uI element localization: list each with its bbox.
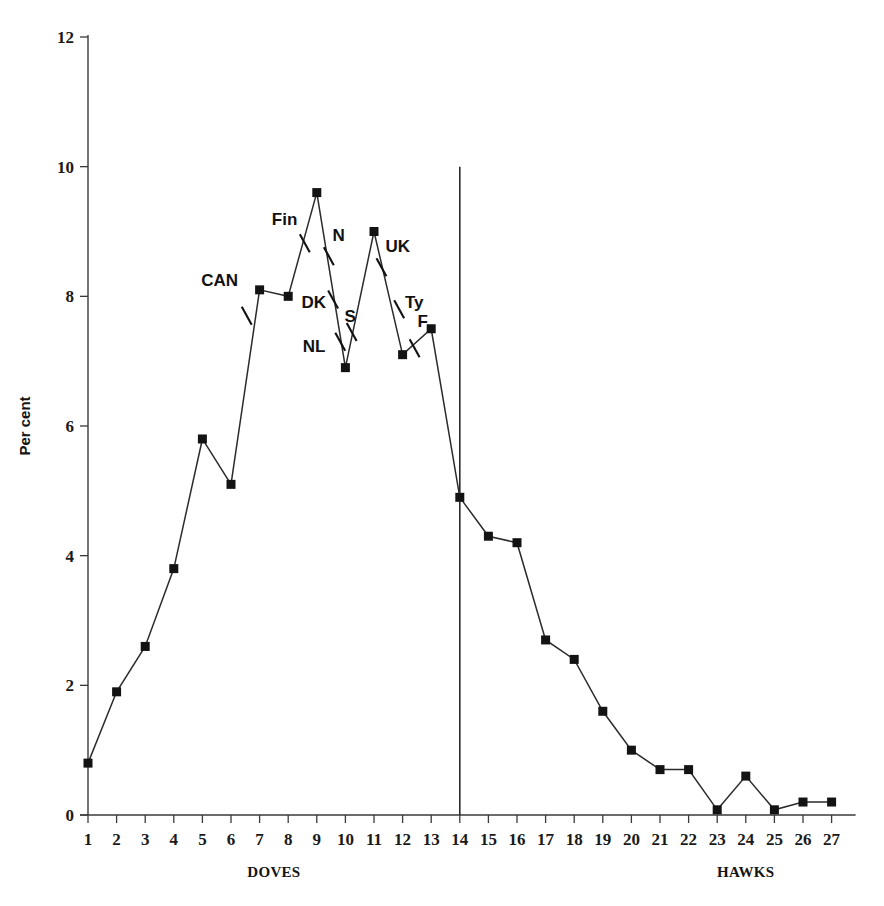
y-axis-title: Per cent [16, 396, 33, 455]
axis-group-label: DOVES [247, 864, 300, 880]
data-point-marker [284, 292, 293, 301]
data-point-marker [799, 798, 808, 807]
x-axis-tick-label: 3 [141, 830, 150, 849]
country-annotation-label: UK [385, 237, 410, 256]
x-axis-tick-label: 22 [680, 830, 697, 849]
country-annotation-label: Fin [272, 210, 298, 229]
x-axis-tick-label: 8 [284, 830, 293, 849]
data-point-marker [112, 687, 121, 696]
data-point-marker [398, 350, 407, 359]
country-annotation-label: F [417, 312, 427, 331]
data-point-marker [684, 765, 693, 774]
x-axis-tick-label: 20 [623, 830, 640, 849]
x-axis-tick-label: 10 [337, 830, 354, 849]
y-axis-tick-label: 10 [57, 158, 74, 177]
data-point-marker [455, 493, 464, 502]
x-axis-tick-label: 9 [313, 830, 322, 849]
y-axis-tick-label: 0 [66, 806, 75, 825]
y-axis-tick-label: 2 [66, 676, 75, 695]
y-axis-tick-label: 6 [66, 417, 75, 436]
x-axis-tick-label: 26 [795, 830, 812, 849]
data-point-marker [312, 188, 321, 197]
data-point-marker [770, 805, 779, 814]
data-point-marker [541, 635, 550, 644]
x-axis-tick-label: 18 [566, 830, 583, 849]
data-point-marker [827, 798, 836, 807]
axes-layer: 0246810121234567891011121314151617181920… [57, 28, 856, 849]
annotation-leader-tick [394, 300, 404, 318]
country-annotation-label: NL [303, 337, 326, 356]
data-point-marker [484, 532, 493, 541]
y-axis-tick-label: 12 [57, 28, 74, 47]
annotation-leader-tick [410, 339, 420, 357]
axis-group-label: HAWKS [717, 864, 774, 880]
x-axis-tick-label: 25 [766, 830, 783, 849]
x-axis-tick-label: 16 [509, 830, 526, 849]
x-axis-tick-label: 24 [737, 830, 755, 849]
data-point-marker [656, 765, 665, 774]
country-annotation-label: N [333, 226, 345, 245]
country-annotation-label: CAN [201, 271, 238, 290]
x-axis-tick-label: 27 [823, 830, 841, 849]
x-axis-tick-label: 6 [227, 830, 236, 849]
data-point-marker [570, 655, 579, 664]
x-axis-tick-label: 23 [709, 830, 726, 849]
line-chart: 0246810121234567891011121314151617181920… [0, 0, 884, 906]
labels-layer: Per centDOVESHAWKS [16, 396, 774, 880]
x-axis-tick-label: 17 [537, 830, 555, 849]
x-axis-tick-label: 2 [112, 830, 121, 849]
data-point-marker [255, 285, 264, 294]
y-axis-tick-label: 4 [66, 547, 75, 566]
data-point-marker [627, 746, 636, 755]
x-axis-tick-label: 1 [84, 830, 93, 849]
country-annotation-label: DK [301, 293, 326, 312]
data-point-marker [198, 434, 207, 443]
x-axis-tick-label: 5 [198, 830, 207, 849]
data-point-marker [713, 805, 722, 814]
x-axis-tick-label: 15 [480, 830, 497, 849]
data-point-marker [370, 227, 379, 236]
annotations-layer: CANFinNDKSNLUKTyF [201, 210, 428, 358]
x-axis-tick-label: 7 [255, 830, 264, 849]
x-axis-tick-label: 14 [451, 830, 469, 849]
x-axis-tick-label: 11 [366, 830, 382, 849]
data-point-marker [84, 759, 93, 768]
data-point-marker [341, 363, 350, 372]
chart-container: 0246810121234567891011121314151617181920… [0, 0, 884, 906]
country-annotation-label: Ty [405, 293, 424, 312]
data-point-marker [598, 707, 607, 716]
data-point-marker [227, 480, 236, 489]
data-point-marker [169, 564, 178, 573]
data-point-marker [741, 772, 750, 781]
x-axis-tick-label: 19 [594, 830, 611, 849]
y-axis-tick-label: 8 [66, 287, 75, 306]
data-point-marker [141, 642, 150, 651]
data-point-marker [513, 538, 522, 547]
annotation-leader-tick [242, 307, 252, 325]
country-annotation-label: S [345, 307, 356, 326]
x-axis-tick-label: 4 [170, 830, 179, 849]
x-axis-tick-label: 21 [652, 830, 669, 849]
x-axis-tick-label: 12 [394, 830, 411, 849]
x-axis-tick-label: 13 [423, 830, 440, 849]
data-point-marker [427, 324, 436, 333]
